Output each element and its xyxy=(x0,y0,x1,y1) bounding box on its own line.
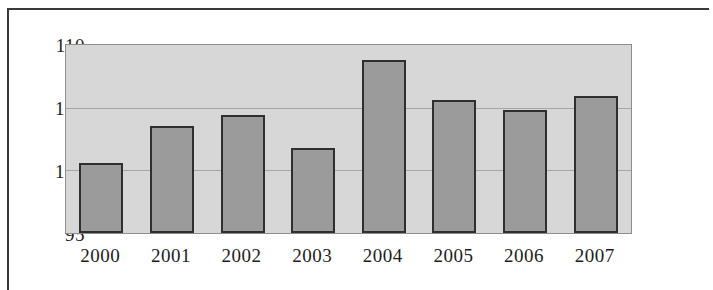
x-axis-tick-labels: 2000 2001 2002 2003 2004 2005 2006 2007 xyxy=(65,246,630,276)
bar-2006 xyxy=(503,110,547,233)
x-axis-tick-label-2001: 2001 xyxy=(135,246,207,265)
plot-area xyxy=(65,44,632,234)
x-axis-tick-label-2007: 2007 xyxy=(559,246,631,265)
x-axis-tick-label-2002: 2002 xyxy=(206,246,278,265)
bar-chart: 110 105 100 95 2000 2001 2002 2003 xyxy=(9,10,709,290)
bar-2004 xyxy=(362,60,406,233)
x-axis-tick-label-2006: 2006 xyxy=(488,246,560,265)
bar-2002 xyxy=(221,115,265,233)
bar-2000 xyxy=(79,163,123,233)
figure-frame: 110 105 100 95 2000 2001 2002 2003 xyxy=(7,8,707,290)
bar-2005 xyxy=(432,100,476,233)
x-axis-tick-label-2003: 2003 xyxy=(276,246,348,265)
x-axis-tick-label-2000: 2000 xyxy=(64,246,136,265)
bar-2007 xyxy=(574,96,618,233)
bar-2003 xyxy=(291,148,335,233)
bar-group xyxy=(66,45,631,233)
x-axis-tick-label-2004: 2004 xyxy=(347,246,419,265)
bar-2001 xyxy=(150,126,194,233)
x-axis-tick-label-2005: 2005 xyxy=(417,246,489,265)
